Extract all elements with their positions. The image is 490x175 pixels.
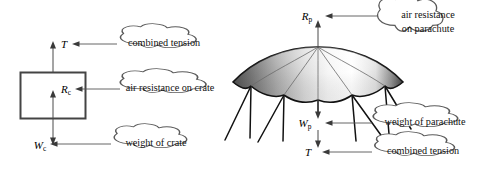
crate-weight-callout-text: weight of crate: [125, 137, 187, 148]
parachute-air-resistance-callout-line2: on parachute: [402, 23, 455, 34]
parachute-tension-symbol: T: [305, 146, 312, 158]
force-diagram-canvas: T Rc Wc combined tension air resistance …: [0, 0, 490, 175]
crate-tension-symbol: T: [61, 38, 68, 50]
suspension-line-4: [283, 95, 284, 141]
suspension-line-2: [250, 86, 251, 138]
parachute-tension-callout-text: combined tension: [387, 145, 459, 156]
crate-tension-symbol-letter: T: [61, 38, 68, 50]
parachute-weight-symbol-sub: p: [308, 121, 312, 130]
parachute-tension-symbol-letter: T: [305, 146, 312, 158]
crate-tension-callout-text: combined tension: [128, 37, 200, 48]
parachute-air-resistance-callout-line1: air resistance: [401, 9, 455, 20]
parachute-air-resistance-symbol-sub: p: [309, 14, 313, 23]
crate-air-resistance-callout-text: air resistance on crate: [126, 82, 215, 93]
parachute-weight-callout-text: weight of parachute: [385, 116, 466, 127]
figure-root: T Rc Wc combined tension air resistance …: [0, 0, 490, 175]
